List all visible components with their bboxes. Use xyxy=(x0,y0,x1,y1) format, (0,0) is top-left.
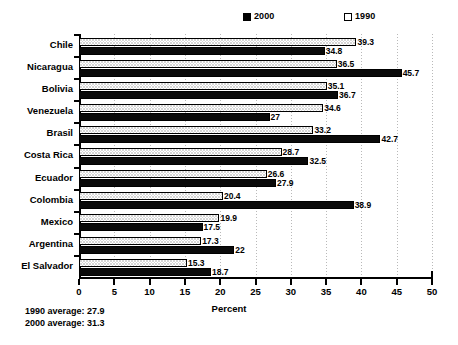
category-label: Argentina xyxy=(29,239,73,249)
bar-row-2000: 42.7 xyxy=(79,135,432,143)
footnote-2000-average: 2000 average: 31.3 xyxy=(25,317,105,329)
legend-label-2000: 2000 xyxy=(254,12,274,21)
x-tick-20 xyxy=(219,279,221,285)
bar-row-2000: 36.7 xyxy=(79,91,432,99)
bar-2000: 34.8 xyxy=(79,47,325,55)
bar-1990: 33.2 xyxy=(79,126,313,134)
bar-value-label: 34.6 xyxy=(324,104,341,113)
x-tick-50 xyxy=(431,279,433,285)
bar-group: Argentina17.322 xyxy=(79,233,432,255)
bar-value-label: 34.8 xyxy=(326,47,343,56)
category-label: Costa Rica xyxy=(24,151,73,161)
y-axis-tick xyxy=(74,255,79,257)
bar-1990: 20.4 xyxy=(79,192,223,200)
bar-2000: 45.7 xyxy=(79,69,402,77)
chart-footnotes: 1990 average: 27.9 2000 average: 31.3 xyxy=(25,305,105,329)
bar-1990: 39.3 xyxy=(79,38,356,46)
bar-2000: 32.5 xyxy=(79,157,308,165)
x-tick-label-0: 0 xyxy=(76,287,81,297)
bar-1990: 36.5 xyxy=(79,60,337,68)
bar-value-label: 18.7 xyxy=(212,267,229,276)
bar-2000: 27 xyxy=(79,113,270,121)
x-tick-label-25: 25 xyxy=(250,287,261,297)
gridline-50 xyxy=(432,34,433,277)
y-axis-tick xyxy=(74,78,79,80)
bar-2000: 17.5 xyxy=(79,223,203,231)
category-label: Brasil xyxy=(47,129,73,139)
bar-value-label: 17.3 xyxy=(202,236,219,245)
bar-group: Costa Rica28.732.5 xyxy=(79,144,432,166)
bar-value-label: 22 xyxy=(235,245,244,254)
bar-group: El Salvador15.318.7 xyxy=(79,255,432,277)
x-tick-label-15: 15 xyxy=(180,287,191,297)
bar-value-label: 33.2 xyxy=(314,126,331,135)
bar-2000: 18.7 xyxy=(79,268,211,276)
bar-group: Venezuela34.627 xyxy=(79,100,432,122)
bar-row-2000: 17.5 xyxy=(79,223,432,231)
bar-row-1990: 20.4 xyxy=(79,192,432,200)
x-tick-label-50: 50 xyxy=(427,287,438,297)
x-tick-label-40: 40 xyxy=(356,287,367,297)
bar-value-label: 36.7 xyxy=(339,91,356,100)
bar-row-1990: 39.3 xyxy=(79,38,432,46)
bar-row-1990: 36.5 xyxy=(79,60,432,68)
bar-group: Mexico19.917.5 xyxy=(79,211,432,233)
bar-row-1990: 28.7 xyxy=(79,148,432,156)
category-label: Chile xyxy=(50,40,73,50)
x-tick-label-20: 20 xyxy=(215,287,226,297)
bar-row-1990: 33.2 xyxy=(79,126,432,134)
bar-1990: 19.9 xyxy=(79,214,219,222)
bar-value-label: 20.4 xyxy=(224,192,241,201)
bar-row-1990: 19.9 xyxy=(79,214,432,222)
x-tick-45 xyxy=(396,279,398,285)
bar-row-2000: 18.7 xyxy=(79,268,432,276)
x-tick-label-10: 10 xyxy=(144,287,155,297)
x-tick-label-35: 35 xyxy=(321,287,332,297)
x-tick-5 xyxy=(113,279,115,285)
legend-swatch-2000-icon xyxy=(243,13,251,21)
bar-2000: 27.9 xyxy=(79,179,276,187)
bar-row-2000: 34.8 xyxy=(79,47,432,55)
y-axis-tick xyxy=(74,189,79,191)
bar-row-1990: 15.3 xyxy=(79,259,432,267)
bar-group: Brasil33.242.7 xyxy=(79,122,432,144)
bar-row-1990: 17.3 xyxy=(79,237,432,245)
bar-row-2000: 38.9 xyxy=(79,201,432,209)
bar-row-2000: 22 xyxy=(79,246,432,254)
x-tick-label-30: 30 xyxy=(286,287,297,297)
legend-label-1990: 1990 xyxy=(355,12,375,21)
plot-area: Chile39.334.8Nicaragua36.545.7Bolivia35.… xyxy=(79,34,432,277)
bar-row-1990: 35.1 xyxy=(79,82,432,90)
x-tick-10 xyxy=(149,279,151,285)
y-axis-tick xyxy=(74,211,79,213)
y-axis-tick xyxy=(74,100,79,102)
bar-2000: 22 xyxy=(79,246,234,254)
y-axis-tick xyxy=(74,167,79,169)
bar-2000: 38.9 xyxy=(79,201,354,209)
bar-row-2000: 27.9 xyxy=(79,179,432,187)
bar-group: Nicaragua36.545.7 xyxy=(79,56,432,78)
x-axis-end-cap xyxy=(431,271,433,279)
bar-1990: 15.3 xyxy=(79,259,187,267)
bar-value-label: 15.3 xyxy=(188,258,205,267)
y-axis-tick xyxy=(74,34,79,36)
x-tick-label-5: 5 xyxy=(112,287,117,297)
bar-1990: 26.6 xyxy=(79,170,267,178)
bar-row-2000: 32.5 xyxy=(79,157,432,165)
bar-value-label: 19.9 xyxy=(220,214,237,223)
bar-value-label: 28.7 xyxy=(283,148,300,157)
y-axis-tick xyxy=(74,56,79,58)
bar-value-label: 39.3 xyxy=(357,38,374,47)
x-tick-15 xyxy=(184,279,186,285)
bar-2000: 36.7 xyxy=(79,91,338,99)
category-label: Venezuela xyxy=(27,107,73,117)
bar-row-2000: 45.7 xyxy=(79,69,432,77)
x-tick-label-45: 45 xyxy=(391,287,402,297)
category-label: Colombia xyxy=(30,195,73,205)
category-label: El Salvador xyxy=(21,261,73,271)
x-tick-35 xyxy=(325,279,327,285)
legend-entry-2000: 2000 xyxy=(243,12,274,21)
bar-chart: 2000 1990 Chile39.334.8Nicaragua36.545.7… xyxy=(0,0,458,345)
bar-value-label: 27 xyxy=(271,113,280,122)
bar-value-label: 42.7 xyxy=(381,135,398,144)
